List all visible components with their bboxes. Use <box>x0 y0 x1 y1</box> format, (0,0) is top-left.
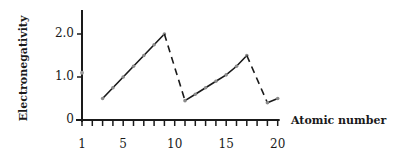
data-point <box>276 97 280 101</box>
data-point <box>132 64 136 68</box>
data-point <box>235 64 239 68</box>
data-point <box>121 75 125 79</box>
data-point <box>224 73 228 77</box>
data-point <box>266 101 270 105</box>
data-point <box>183 99 187 103</box>
data-point <box>80 71 84 75</box>
data-point <box>214 80 218 84</box>
x-tick-label: 15 <box>216 137 236 151</box>
y-tick-label: 2.0 <box>44 26 74 40</box>
electronegativity-chart: Electronegativity Atomic number 01.02.0 … <box>0 0 405 161</box>
y-tick-label: 0 <box>44 112 74 126</box>
trend-drop-dashed-line <box>247 56 268 103</box>
data-point <box>204 86 208 90</box>
y-axis-label: Electronegativity <box>17 14 30 124</box>
x-tick-label: 10 <box>165 137 185 151</box>
x-axis-label: Atomic number <box>291 114 386 127</box>
x-tick-label: 20 <box>268 137 288 151</box>
data-point <box>101 97 105 101</box>
x-tick-label: 5 <box>113 137 133 151</box>
y-tick-label: 1.0 <box>44 69 74 83</box>
data-point <box>194 92 198 96</box>
data-point <box>142 54 146 58</box>
data-point <box>152 43 156 47</box>
x-tick-label: 1 <box>72 137 92 151</box>
trend-drop-dashed-line <box>164 34 185 101</box>
data-point <box>111 86 115 90</box>
